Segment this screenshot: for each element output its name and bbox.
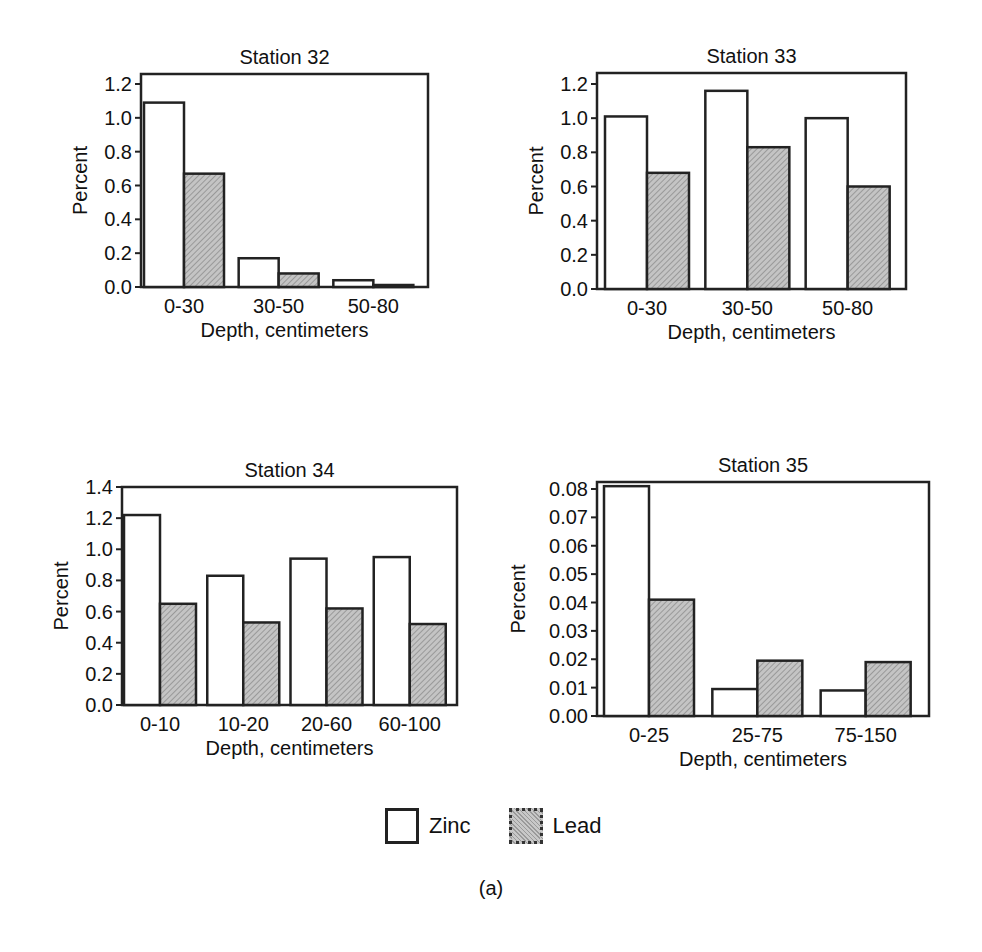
y-tick-label: 0.05: [549, 563, 588, 585]
y-tick-label: 0.4: [104, 208, 132, 230]
y-tick-label: 0.2: [560, 244, 588, 266]
chart-panel-station-35: Station 350.000.010.020.030.040.050.060.…: [507, 454, 929, 770]
chart-title: Station 35: [718, 454, 808, 476]
y-tick-label: 0.2: [104, 242, 132, 264]
y-tick-label: 0.8: [560, 141, 588, 163]
y-tick-label: 0.2: [85, 663, 113, 685]
x-tick-label: 20-60: [301, 713, 352, 735]
bar-lead-30-50: [747, 147, 789, 289]
bar-lead-0-10: [160, 604, 196, 705]
x-tick-label: 0-25: [629, 724, 669, 746]
x-tick-label: 25-75: [732, 724, 783, 746]
y-tick-label: 0.0: [560, 278, 588, 300]
bar-lead-25-75: [757, 661, 802, 716]
y-axis-label: Percent: [525, 146, 547, 215]
bar-zinc-60-100: [374, 557, 410, 705]
y-tick-label: 0.0: [104, 276, 132, 298]
x-axis-label: Depth, centimeters: [679, 748, 847, 770]
y-axis-label: Percent: [50, 561, 72, 630]
y-axis-label: Percent: [69, 146, 91, 215]
y-tick-label: 0.8: [104, 141, 132, 163]
y-tick-label: 0.6: [104, 175, 132, 197]
y-tick-label: 0.6: [85, 601, 113, 623]
bar-lead-0-25: [649, 600, 694, 716]
bar-zinc-10-20: [207, 576, 243, 705]
bar-zinc-30-50: [239, 258, 279, 287]
lead-swatch-icon: [509, 808, 543, 844]
bar-lead-10-20: [243, 622, 279, 705]
x-tick-label: 60-100: [379, 713, 441, 735]
y-tick-label: 1.2: [560, 73, 588, 95]
y-tick-label: 0.00: [549, 705, 588, 727]
x-tick-label: 10-20: [218, 713, 269, 735]
x-tick-label: 50-80: [348, 295, 399, 317]
bar-zinc-50-80: [806, 118, 848, 289]
legend-item-lead: Lead: [509, 808, 602, 844]
bar-zinc-50-80: [333, 280, 373, 287]
x-tick-label: 0-10: [140, 713, 180, 735]
x-axis-label: Depth, centimeters: [206, 737, 374, 759]
y-tick-label: 0.07: [549, 506, 588, 528]
bar-zinc-75-150: [821, 690, 866, 716]
x-tick-label: 0-30: [164, 295, 204, 317]
bar-zinc-20-60: [291, 559, 327, 705]
y-tick-label: 0.8: [85, 569, 113, 591]
y-tick-label: 1.0: [560, 107, 588, 129]
y-tick-label: 0.4: [85, 632, 113, 654]
figure-caption: (a): [0, 877, 982, 900]
x-tick-label: 30-50: [253, 295, 304, 317]
bar-lead-75-150: [866, 662, 911, 716]
x-tick-label: 30-50: [722, 297, 773, 319]
y-tick-label: 1.2: [85, 507, 113, 529]
bar-zinc-30-50: [705, 91, 747, 289]
chart-title: Station 32: [239, 46, 329, 68]
bar-zinc-25-75: [712, 689, 757, 716]
bar-zinc-0-10: [124, 515, 160, 705]
bar-lead-0-30: [647, 173, 689, 289]
x-tick-label: 0-30: [627, 297, 667, 319]
x-tick-label: 75-150: [835, 724, 897, 746]
y-tick-label: 0.04: [549, 592, 588, 614]
y-tick-label: 0.0: [85, 694, 113, 716]
legend-label-zinc: Zinc: [429, 813, 471, 839]
y-tick-label: 1.2: [104, 73, 132, 95]
chart-panel-station-34: Station 340.00.20.40.60.81.01.21.4Percen…: [50, 459, 457, 759]
bar-lead-30-50: [279, 273, 319, 287]
bar-zinc-0-30: [605, 116, 647, 289]
x-axis-label: Depth, centimeters: [668, 321, 836, 343]
legend-item-zinc: Zinc: [385, 808, 471, 844]
bar-lead-60-100: [410, 624, 446, 705]
chart-title: Station 33: [706, 45, 796, 67]
bar-lead-0-30: [184, 174, 224, 287]
zinc-swatch-icon: [385, 808, 419, 844]
y-tick-label: 1.0: [85, 538, 113, 560]
y-tick-label: 1.0: [104, 107, 132, 129]
chart-panel-station-32: Station 320.00.20.40.60.81.01.2Percent0-…: [69, 46, 428, 341]
bar-zinc-0-30: [144, 103, 184, 287]
y-tick-label: 0.4: [560, 210, 588, 232]
chart-panel-station-33: Station 330.00.20.40.60.81.01.2Percent0-…: [525, 45, 906, 343]
y-tick-label: 0.03: [549, 620, 588, 642]
y-tick-label: 0.6: [560, 176, 588, 198]
y-tick-label: 0.06: [549, 535, 588, 557]
y-tick-label: 0.08: [549, 478, 588, 500]
y-tick-label: 0.01: [549, 677, 588, 699]
legend-label-lead: Lead: [553, 813, 602, 839]
y-tick-label: 0.02: [549, 648, 588, 670]
x-tick-label: 50-80: [822, 297, 873, 319]
legend: Zinc Lead: [385, 808, 640, 844]
bar-lead-50-80: [848, 187, 890, 290]
chart-title: Station 34: [244, 459, 334, 481]
y-axis-label: Percent: [507, 564, 529, 633]
bar-lead-50-80: [373, 285, 413, 287]
bar-lead-20-60: [327, 608, 363, 705]
bar-zinc-0-25: [604, 486, 649, 716]
y-tick-label: 1.4: [85, 476, 113, 498]
x-axis-label: Depth, centimeters: [201, 319, 369, 341]
